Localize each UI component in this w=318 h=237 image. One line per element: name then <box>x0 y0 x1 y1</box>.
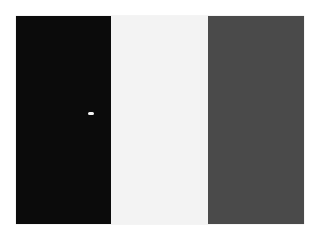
color-bands-image <box>16 16 304 224</box>
white-speck <box>88 112 94 115</box>
left-black-band <box>16 16 111 224</box>
middle-white-band <box>111 16 208 224</box>
right-gray-band <box>208 16 304 224</box>
